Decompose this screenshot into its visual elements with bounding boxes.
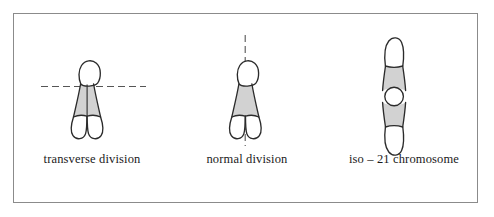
panel-label-iso21-chromosome: iso – 21 chromosome [337, 152, 471, 167]
chromosome-diagram-svg [0, 0, 494, 217]
panel-transverse-division [41, 61, 146, 139]
normal-chromosome-short-arm [237, 61, 258, 86]
normal-chromosome-right-chromatid [246, 115, 262, 138]
panel-label-normal-division: normal division [192, 152, 302, 167]
normal-chromosome-left-chromatid [230, 115, 246, 138]
transverse-chromosome-short-arm [79, 61, 100, 86]
iso21-upper-cap [385, 38, 404, 67]
transverse-chromosome-left-chromatid [71, 115, 87, 138]
chromosome-division-figure: transverse division normal division iso … [0, 0, 494, 217]
transverse-chromosome-right-chromatid [87, 115, 103, 138]
panel-label-transverse-division: transverse division [32, 152, 152, 167]
panel-normal-division [230, 35, 262, 146]
panel-iso21-chromosome [383, 38, 406, 155]
iso21-centromere-circle [385, 87, 404, 106]
iso21-lower-cap [385, 126, 404, 155]
